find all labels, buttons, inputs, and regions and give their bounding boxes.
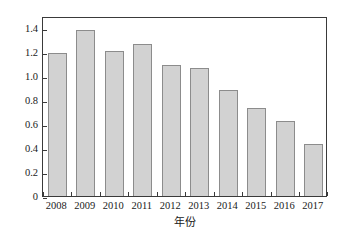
bar xyxy=(190,68,209,196)
y-axis-tick xyxy=(43,102,47,103)
y-axis-tick-label: 1.2 xyxy=(16,48,38,58)
bar xyxy=(76,30,95,196)
x-axis-tick xyxy=(71,192,72,196)
x-axis-tick-label: 2011 xyxy=(128,199,157,212)
x-axis-tick xyxy=(185,192,186,196)
y-axis-tick xyxy=(43,174,47,175)
bar-chart: 比值 00.20.40.60.81.01.21.4 20082009201020… xyxy=(0,0,344,249)
bar xyxy=(276,121,295,196)
x-axis-tick-label: 2008 xyxy=(42,199,71,212)
x-axis-tick xyxy=(271,192,272,196)
bar xyxy=(304,144,323,196)
x-axis-tick-labels: 2008200920102011201220132014201520162017 xyxy=(42,199,327,213)
plot-area xyxy=(42,17,327,197)
x-axis-tick xyxy=(242,192,243,196)
y-axis-tick-label: 0.4 xyxy=(16,144,38,154)
bar xyxy=(105,51,124,196)
x-axis-tick-label: 2012 xyxy=(156,199,185,212)
bar xyxy=(219,90,238,196)
y-axis-tick xyxy=(43,150,47,151)
y-axis-tick-label: 0.6 xyxy=(16,120,38,130)
x-axis-tick-label: 2014 xyxy=(213,199,242,212)
x-axis-tick-label: 2013 xyxy=(185,199,214,212)
y-axis-tick-label: 0 xyxy=(16,192,38,202)
y-axis-tick-label: 0.8 xyxy=(16,96,38,106)
x-axis-tick-label: 2009 xyxy=(71,199,100,212)
bar xyxy=(162,65,181,196)
x-axis-tick xyxy=(43,192,44,196)
y-axis-tick-label: 0.2 xyxy=(16,168,38,178)
y-axis-tick xyxy=(43,126,47,127)
y-axis-tick xyxy=(43,30,47,31)
x-axis-tick-label: 2010 xyxy=(99,199,128,212)
x-axis-tick-label: 2015 xyxy=(242,199,271,212)
y-axis-tick xyxy=(43,78,47,79)
bar xyxy=(48,53,67,196)
x-axis-tick-label: 2016 xyxy=(270,199,299,212)
y-axis-tick-labels: 00.20.40.60.81.01.21.4 xyxy=(14,0,38,249)
x-axis-title: 年份 xyxy=(42,215,327,229)
bar xyxy=(247,108,266,196)
x-axis-tick xyxy=(299,192,300,196)
x-axis-tick xyxy=(214,192,215,196)
y-axis-tick xyxy=(43,54,47,55)
x-axis-tick xyxy=(327,192,328,196)
bar xyxy=(133,44,152,196)
x-axis-tick xyxy=(128,192,129,196)
x-axis-tick-label: 2017 xyxy=(299,199,328,212)
x-axis-tick xyxy=(157,192,158,196)
y-axis-tick-label: 1.4 xyxy=(16,24,38,34)
y-axis-tick-label: 1.0 xyxy=(16,72,38,82)
x-axis-tick xyxy=(100,192,101,196)
